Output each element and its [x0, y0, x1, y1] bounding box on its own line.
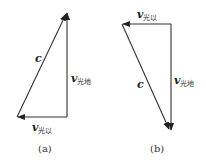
- caption-a: (a): [38, 143, 52, 154]
- panel-b: c v光地 v光以 (b): [122, 8, 194, 154]
- caption-b: (b): [150, 143, 164, 154]
- vector-diagram: c v光地 v光以 (a) c v光地 v光以 (b): [0, 0, 206, 162]
- label-v-light-earth-a: v光地: [71, 72, 91, 86]
- label-v-light-earth-b: v光地: [174, 74, 194, 88]
- vector-c-b: [122, 24, 169, 129]
- label-c-a: c: [35, 52, 42, 65]
- panel-a: c v光地 v光以 (a): [17, 13, 91, 154]
- vector-c-a: [17, 14, 66, 117]
- label-c-b: c: [137, 78, 144, 91]
- label-v-light-ether-a: v光以: [32, 121, 52, 135]
- label-v-light-ether-b: v光以: [137, 8, 157, 22]
